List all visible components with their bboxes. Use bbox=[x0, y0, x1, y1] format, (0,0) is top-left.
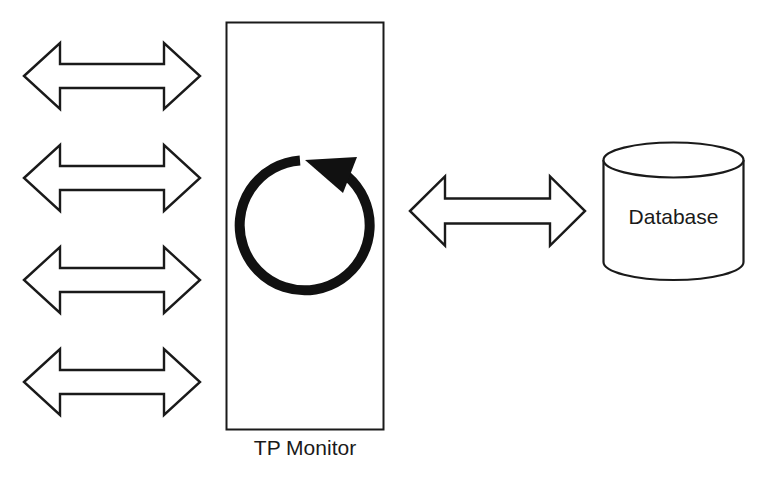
db-arrow bbox=[410, 176, 585, 245]
client-arrow-4 bbox=[24, 349, 200, 415]
client-arrow-3 bbox=[24, 247, 200, 313]
client-arrow-2 bbox=[24, 145, 200, 211]
client-arrow-1 bbox=[24, 43, 200, 109]
database-label: Database bbox=[603, 205, 744, 229]
tp-monitor-box bbox=[227, 23, 384, 430]
tp-monitor-label: TP Monitor bbox=[226, 436, 384, 460]
diagram-canvas bbox=[0, 0, 763, 477]
